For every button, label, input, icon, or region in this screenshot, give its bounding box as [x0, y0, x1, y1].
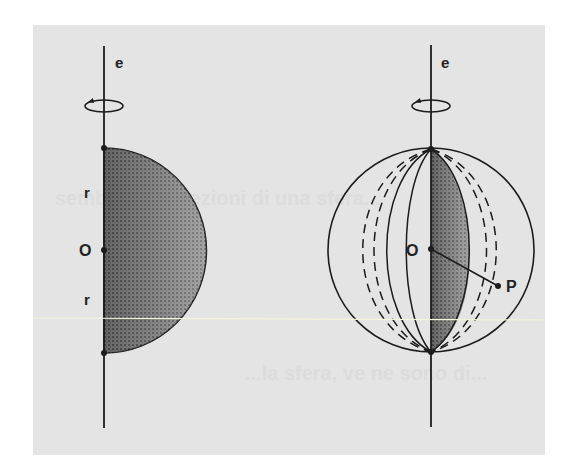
axis-label-e-right: e [441, 54, 449, 71]
center-point-left [101, 247, 107, 253]
figure-canvas: sembrano le sezioni di una sfera... ...l… [0, 0, 573, 471]
center-label-left: O [79, 242, 91, 259]
center-point-right [428, 246, 434, 252]
bottom-point-left [101, 350, 107, 356]
point-P [495, 283, 501, 289]
left-diagram: e r O r [79, 46, 206, 428]
radius-label-bottom: r [84, 291, 90, 308]
radius-label-top: r [84, 184, 90, 201]
svg-text:...la sfera, ve ne sono di...: ...la sfera, ve ne sono di... [245, 362, 487, 384]
axis-label-e-left: e [115, 54, 123, 71]
north-pole [428, 146, 434, 152]
point-label-P: P [506, 278, 517, 295]
center-label-right: O [406, 242, 418, 259]
south-pole [428, 349, 434, 355]
top-point-left [101, 145, 107, 151]
